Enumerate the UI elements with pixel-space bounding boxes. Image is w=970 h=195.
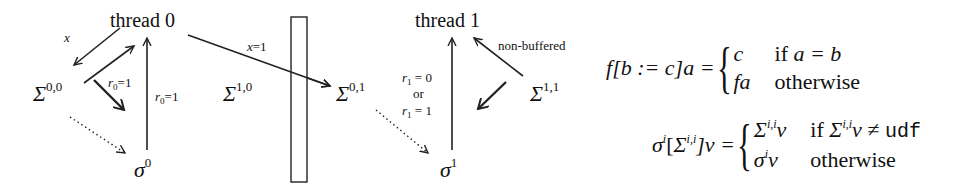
formula-memory-merge: σi[Σi,i]v = { Σi,iv if Σi,iv ≠ udf σiv o… xyxy=(652,117,921,173)
label-r1-0: r1 = 0 xyxy=(402,70,432,87)
bold-arrow-sigma11-down xyxy=(478,82,506,109)
label-r0-1-a: r0=1 xyxy=(108,75,131,92)
formula-function-update: f[b := c]a = { c if a = b fa otherwise xyxy=(606,40,860,96)
mem-0-label: σ0 xyxy=(134,155,151,182)
update-lhs: f[b := c]a = xyxy=(606,55,715,81)
barrier-rectangle xyxy=(291,17,307,182)
arrow-thread0-to-sigma00 xyxy=(74,28,120,65)
label-x1-right: x=1 xyxy=(246,39,267,54)
label-non-buffered: non-buffered xyxy=(498,38,566,53)
sigma-11-label: Σ1,1 xyxy=(529,79,559,106)
merge-lhs: σi[Σi,i]v = xyxy=(652,132,735,158)
update-cases: c if a = b fa otherwise xyxy=(733,41,860,95)
sigma-01-label: Σ0,1 xyxy=(335,79,365,106)
label-r0-1-b: r0=1 xyxy=(155,89,178,106)
dotted-arrow-sigma00-to-mem0 xyxy=(70,117,125,153)
merge-cases: Σi,iv if Σi,iv ≠ udf σiv otherwise xyxy=(754,117,921,173)
label-r1-1: r1 = 1 xyxy=(402,103,432,120)
sigma-10-label: Σ1,0 xyxy=(222,79,252,106)
left-brace: { xyxy=(717,40,732,96)
mem-1-label: σ1 xyxy=(440,155,457,182)
label-or: or xyxy=(413,86,425,101)
left-brace: { xyxy=(737,117,752,173)
sigma-00-label: Σ0,0 xyxy=(32,79,62,106)
thread-1-label: thread 1 xyxy=(415,9,480,31)
label-x1-left: x xyxy=(63,30,70,45)
